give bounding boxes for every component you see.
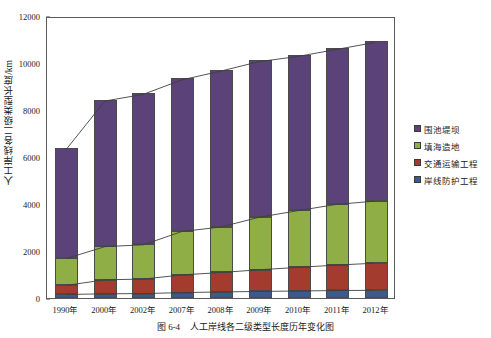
figure-container: 人工岸线各二级类型长度/km 0200040006000800010000120…: [0, 0, 491, 338]
cumulative-line: [66, 43, 374, 150]
legend-item-label: 岸线防护工程: [424, 174, 478, 186]
legend-item[interactable]: 岸线防护工程: [414, 171, 491, 188]
y-axis: 020004000600080001000012000: [0, 17, 46, 299]
y-axis-tick-label: 8000: [23, 107, 40, 116]
legend-item[interactable]: 围池堤坝: [414, 120, 491, 137]
y-axis-tick-label: 12000: [19, 13, 40, 22]
caption-number: 图 6-4: [157, 322, 180, 332]
y-axis-tick-label: 0: [36, 295, 40, 304]
legend-item-label: 交通运输工程: [424, 157, 478, 169]
cumulative-line: [66, 201, 374, 258]
figure-caption: 图 6-4人工岸线各二级类型长度历年变化图: [0, 320, 491, 333]
x-axis-tick-label: 2009年: [246, 303, 272, 315]
legend-swatch-icon: [414, 176, 421, 183]
x-axis: 1990年2000年2002年2007年2008年2009年2010年2011年…: [46, 299, 395, 317]
legend-item[interactable]: 填海造地: [414, 137, 491, 154]
x-axis-tick-label: 2012年: [363, 303, 389, 315]
y-axis-tick-label: 10000: [19, 60, 40, 69]
x-axis-tick-label: 2000年: [91, 303, 117, 315]
cumulative-lines-layer: [47, 18, 394, 298]
chart-legend: 围池堤坝填海造地交通运输工程岸线防护工程: [414, 120, 491, 188]
cumulative-line: [66, 290, 374, 294]
x-axis-tick-label: 2011年: [324, 303, 350, 315]
y-axis-tick-label: 4000: [23, 201, 40, 210]
legend-swatch-icon: [414, 159, 421, 166]
cumulative-line: [66, 263, 374, 285]
x-axis-tick-label: 2002年: [130, 303, 156, 315]
caption-text: 人工岸线各二级类型长度历年变化图: [190, 322, 334, 332]
legend-swatch-icon: [414, 125, 421, 132]
legend-item-label: 填海造地: [424, 140, 460, 152]
legend-item-label: 围池堤坝: [424, 123, 460, 135]
x-axis-tick-label: 1990年: [52, 303, 78, 315]
plot-area: [46, 17, 395, 299]
y-axis-tick-label: 2000: [23, 248, 40, 257]
x-axis-tick-label: 2008年: [208, 303, 234, 315]
x-axis-tick-label: 2007年: [169, 303, 195, 315]
y-axis-tick-label: 6000: [23, 154, 40, 163]
x-axis-tick-label: 2010年: [285, 303, 311, 315]
legend-item[interactable]: 交通运输工程: [414, 154, 491, 171]
legend-swatch-icon: [414, 142, 421, 149]
